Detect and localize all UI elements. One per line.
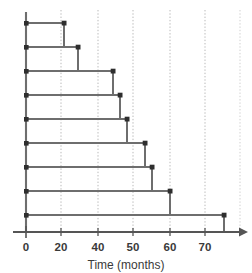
- endpoint-marker-4: [118, 93, 123, 98]
- endpoint-marker-1: [62, 21, 67, 26]
- endpoint-marker-9: [222, 213, 227, 218]
- step-connectors: [64, 23, 224, 232]
- start-marker-8: [24, 189, 29, 194]
- endpoint-marker-6: [143, 141, 148, 146]
- x-tick-label-50: 50: [127, 241, 140, 253]
- x-tick-label-70: 70: [199, 241, 212, 253]
- start-marker-2: [24, 45, 29, 50]
- start-marker-9: [24, 213, 29, 218]
- x-axis-title: Time (months): [88, 258, 165, 272]
- step-chart-svg: 0 20 40 50 60 70 Time (months): [0, 0, 252, 273]
- start-marker-3: [24, 69, 29, 74]
- endpoint-marker-2: [76, 45, 81, 50]
- gridlines: [61, 10, 240, 232]
- start-marker-1: [24, 21, 29, 26]
- endpoint-marker-8: [168, 189, 173, 194]
- start-marker-5: [24, 117, 29, 122]
- endpoint-marker-7: [150, 165, 155, 170]
- x-tick-label-60: 60: [164, 241, 177, 253]
- endpoint-marker-5: [125, 117, 130, 122]
- start-marker-6: [24, 141, 29, 146]
- chart-container: 0 20 40 50 60 70 Time (months): [0, 0, 252, 273]
- x-axis-tick-labels: 0 20 40 50 60 70: [23, 241, 212, 253]
- start-marker-7: [24, 165, 29, 170]
- x-axis-arrowhead-icon: [239, 227, 248, 236]
- x-axis: [13, 227, 248, 236]
- x-tick-label-20: 20: [55, 241, 68, 253]
- start-marker-4: [24, 93, 29, 98]
- endpoint-marker-3: [111, 69, 116, 74]
- x-tick-label-40: 40: [92, 241, 105, 253]
- x-tick-label-0: 0: [23, 241, 29, 253]
